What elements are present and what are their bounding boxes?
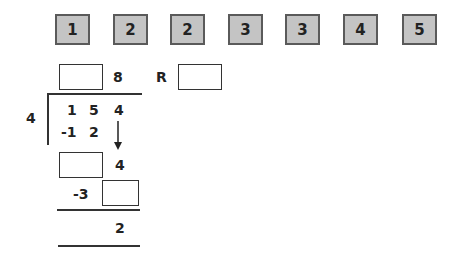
partial-remainder-drop-box[interactable] xyxy=(59,152,103,178)
subtract-ones: 2 xyxy=(89,125,99,139)
remainder-drop-box[interactable] xyxy=(178,64,222,90)
bring-down-arrow-icon xyxy=(113,121,123,151)
divisor: 4 xyxy=(26,111,36,125)
number-tile[interactable]: 5 xyxy=(402,14,437,45)
number-tile[interactable]: 4 xyxy=(343,14,378,45)
dividend-digit: 5 xyxy=(89,103,99,117)
final-line xyxy=(58,245,140,247)
number-tile[interactable]: 3 xyxy=(285,14,320,45)
subtract-tens: -1 xyxy=(61,125,77,139)
brought-down-digit: 4 xyxy=(115,158,125,172)
remainder-label: R xyxy=(156,70,167,84)
quotient-tens-drop-box[interactable] xyxy=(59,64,103,90)
subtraction-line xyxy=(57,209,140,211)
division-bar xyxy=(47,93,142,95)
second-subtract-tens: -3 xyxy=(73,187,89,201)
second-subtract-ones-drop-box[interactable] xyxy=(102,180,139,206)
number-tile[interactable]: 2 xyxy=(113,14,148,45)
dividend-digit: 1 xyxy=(67,103,77,117)
number-tile[interactable]: 3 xyxy=(228,14,263,45)
division-bracket xyxy=(47,93,49,145)
dividend-digit: 4 xyxy=(114,103,124,117)
number-tile[interactable]: 1 xyxy=(55,14,90,45)
number-tile[interactable]: 2 xyxy=(170,14,205,45)
quotient-ones-digit: 8 xyxy=(113,70,123,84)
final-remainder: 2 xyxy=(115,221,125,235)
